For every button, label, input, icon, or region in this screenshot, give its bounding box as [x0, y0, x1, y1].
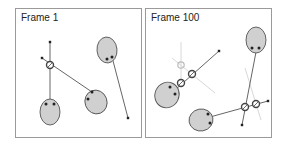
endpoint-marker — [41, 57, 43, 59]
endpoint-marker — [218, 50, 220, 52]
anchor-dot — [258, 47, 261, 50]
ghost-trajectory-line — [245, 68, 261, 120]
anchor-dot — [45, 103, 48, 106]
anchor-dot — [111, 56, 114, 59]
endpoint-marker — [127, 117, 129, 119]
endpoint-marker — [267, 100, 269, 102]
body-ellipse — [187, 107, 214, 133]
anchor-dot — [251, 47, 254, 50]
anchor-dot — [207, 113, 210, 116]
anchor-dot — [174, 93, 177, 96]
body-ellipse — [246, 27, 266, 53]
anchor-dot — [106, 58, 109, 61]
anchor-dot — [53, 103, 56, 106]
body-ellipse — [40, 99, 60, 125]
diagram-canvas — [0, 0, 285, 147]
anchor-dot — [209, 122, 212, 125]
endpoint-marker — [49, 41, 51, 43]
lines-layer — [42, 42, 268, 125]
connector-line — [112, 57, 128, 118]
rings-layer — [47, 62, 260, 111]
anchor-dot — [87, 98, 90, 101]
anchor-dot — [91, 91, 94, 94]
body-ellipse — [82, 87, 111, 117]
connector-line — [242, 52, 256, 125]
points-layer — [41, 41, 269, 126]
anchor-dot — [169, 86, 172, 89]
endpoint-marker — [241, 124, 243, 126]
